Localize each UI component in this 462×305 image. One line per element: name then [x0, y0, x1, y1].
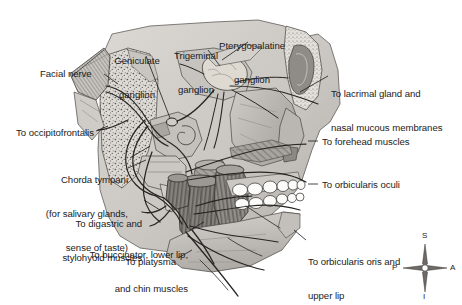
label-chorda-tympani-line-1: Chorda tympani [10, 174, 128, 185]
label-to-orbicularis-oris-line-1: To orbicularis oris and [308, 256, 438, 267]
anatomical-figure: Facial nerve To occipitofrontalis Chorda… [0, 0, 462, 305]
label-to-buccinator-line-2: and chin muscles [38, 283, 188, 294]
compass-label-inferior: I [423, 293, 425, 301]
compass-label-anterior: A [450, 264, 455, 272]
leader-to-orbicularis-oris [294, 230, 306, 240]
label-to-lacrimal-line-2: nasal mucous membranes [331, 122, 461, 133]
label-to-orbicularis-oris-line-2: upper lip [308, 290, 438, 301]
compass-label-superior: S [422, 232, 427, 240]
label-to-forehead-muscles: To forehead muscles [322, 136, 410, 147]
label-geniculate-ganglion: Geniculate ganglion [106, 33, 168, 123]
label-to-platysma: To platysma [100, 256, 176, 267]
label-to-occipitofrontalis: To occipitofrontalis [16, 127, 94, 138]
label-to-orbicularis-oris-and-upper-lip: To orbicularis oris and upper lip [308, 234, 438, 305]
label-pterygopalatine-line-2: ganglion [212, 74, 292, 85]
label-pterygopalatine-ganglion: Pterygopalatine ganglion [212, 18, 292, 108]
label-pterygopalatine-line-1: Pterygopalatine [212, 40, 292, 51]
label-facial-nerve: Facial nerve [40, 68, 92, 79]
label-geniculate-line-2: ganglion [106, 89, 168, 100]
label-to-lacrimal-line-1: To lacrimal gland and [331, 88, 461, 99]
compass-label-posterior: P [392, 264, 397, 272]
label-geniculate-line-1: Geniculate [106, 55, 168, 66]
label-to-orbicularis-oculi: To orbicularis oculi [322, 179, 400, 190]
